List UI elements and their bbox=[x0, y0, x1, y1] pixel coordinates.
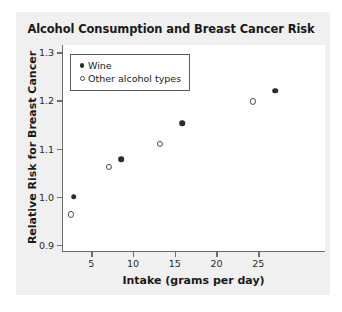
x-axis-tick bbox=[216, 252, 217, 257]
x-axis-tick bbox=[91, 252, 92, 257]
y-axis-tick bbox=[57, 197, 62, 198]
scatter-chart: Alcohol Consumption and Breast Cancer Ri… bbox=[0, 0, 342, 312]
chart-legend: Wine Other alcohol types bbox=[70, 54, 190, 91]
legend-label-wine: Wine bbox=[88, 60, 112, 71]
x-axis-tick-label: 15 bbox=[169, 258, 181, 269]
chart-title: Alcohol Consumption and Breast Cancer Ri… bbox=[0, 22, 342, 36]
x-axis-tick-label: 5 bbox=[88, 258, 94, 269]
y-axis-tick bbox=[57, 100, 62, 101]
x-axis-label: Intake (grams per day) bbox=[62, 274, 325, 287]
x-axis-tick-label: 20 bbox=[210, 258, 222, 269]
data-point bbox=[119, 156, 125, 162]
data-point bbox=[249, 98, 255, 104]
y-axis-tick-label: 1.1 bbox=[39, 143, 54, 154]
x-axis-tick-label: 10 bbox=[127, 258, 139, 269]
y-axis-tick bbox=[57, 149, 62, 150]
data-point bbox=[67, 211, 73, 217]
data-point bbox=[157, 141, 163, 147]
x-axis-tick bbox=[258, 252, 259, 257]
y-axis-tick-label: 0.9 bbox=[39, 239, 54, 250]
data-point bbox=[106, 164, 112, 170]
data-point bbox=[272, 88, 278, 94]
open-circle-icon bbox=[76, 76, 88, 81]
y-axis-tick-label: 1.0 bbox=[39, 191, 54, 202]
data-point bbox=[180, 121, 186, 127]
y-axis-tick bbox=[57, 52, 62, 53]
x-axis-tick bbox=[175, 252, 176, 257]
y-axis-tick-label: 1.2 bbox=[39, 95, 54, 106]
x-axis-tick-label: 25 bbox=[252, 258, 264, 269]
legend-item-wine: Wine bbox=[76, 59, 181, 72]
y-axis-label: Relative Risk for Breast Cancer bbox=[26, 43, 39, 253]
y-axis-tick-label: 1.3 bbox=[39, 47, 54, 58]
legend-label-other-alcohol: Other alcohol types bbox=[88, 73, 181, 84]
data-point bbox=[71, 194, 77, 200]
x-axis-tick bbox=[133, 252, 134, 257]
filled-circle-icon bbox=[76, 63, 88, 67]
legend-item-other-alcohol: Other alcohol types bbox=[76, 72, 181, 85]
y-axis-tick bbox=[57, 245, 62, 246]
